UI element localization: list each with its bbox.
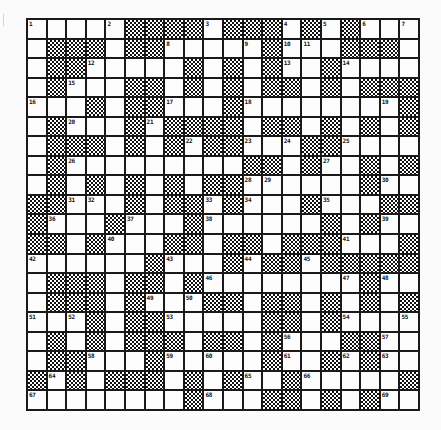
- crossword-cell[interactable]: 35: [322, 196, 340, 214]
- crossword-cell[interactable]: 24: [283, 137, 301, 155]
- crossword-cell[interactable]: [204, 79, 222, 97]
- crossword-cell[interactable]: [302, 98, 320, 116]
- crossword-cell[interactable]: 67: [28, 391, 46, 409]
- crossword-cell[interactable]: 66: [302, 372, 320, 390]
- crossword-cell[interactable]: 55: [400, 313, 418, 331]
- crossword-cell[interactable]: [87, 255, 105, 273]
- crossword-cell[interactable]: [146, 59, 164, 77]
- crossword-cell[interactable]: [342, 196, 360, 214]
- crossword-cell[interactable]: 50: [185, 294, 203, 312]
- crossword-cell[interactable]: [283, 157, 301, 175]
- crossword-cell[interactable]: [126, 255, 144, 273]
- crossword-cell[interactable]: [204, 98, 222, 116]
- crossword-cell[interactable]: [48, 391, 66, 409]
- crossword-cell[interactable]: [185, 40, 203, 58]
- crossword-cell[interactable]: [244, 294, 262, 312]
- crossword-cell[interactable]: [28, 352, 46, 370]
- crossword-cell[interactable]: [224, 157, 242, 175]
- crossword-cell[interactable]: [106, 157, 124, 175]
- crossword-cell[interactable]: [283, 176, 301, 194]
- crossword-cell[interactable]: [302, 391, 320, 409]
- crossword-cell[interactable]: 31: [67, 196, 85, 214]
- crossword-cell[interactable]: 51: [28, 313, 46, 331]
- crossword-cell[interactable]: [204, 313, 222, 331]
- crossword-cell[interactable]: [106, 391, 124, 409]
- crossword-cell[interactable]: [126, 352, 144, 370]
- crossword-cell[interactable]: [400, 137, 418, 155]
- crossword-cell[interactable]: [244, 313, 262, 331]
- crossword-cell[interactable]: [381, 372, 399, 390]
- crossword-cell[interactable]: 38: [204, 215, 222, 233]
- crossword-cell[interactable]: 37: [126, 215, 144, 233]
- crossword-cell[interactable]: [361, 372, 379, 390]
- crossword-cell[interactable]: [381, 294, 399, 312]
- crossword-cell[interactable]: 45: [302, 255, 320, 273]
- crossword-cell[interactable]: [400, 352, 418, 370]
- crossword-cell[interactable]: [283, 196, 301, 214]
- crossword-cell[interactable]: [302, 215, 320, 233]
- crossword-cell[interactable]: [28, 294, 46, 312]
- crossword-cell[interactable]: 56: [283, 333, 301, 351]
- crossword-cell[interactable]: [302, 294, 320, 312]
- crossword-cell[interactable]: [400, 176, 418, 194]
- crossword-cell[interactable]: [342, 157, 360, 175]
- crossword-cell[interactable]: 19: [381, 98, 399, 116]
- crossword-cell[interactable]: [244, 118, 262, 136]
- crossword-cell[interactable]: [204, 255, 222, 273]
- crossword-cell[interactable]: [28, 59, 46, 77]
- crossword-cell[interactable]: 11: [302, 40, 320, 58]
- crossword-cell[interactable]: [361, 137, 379, 155]
- crossword-cell[interactable]: [28, 157, 46, 175]
- crossword-cell[interactable]: [165, 274, 183, 292]
- crossword-cell[interactable]: [106, 294, 124, 312]
- crossword-cell[interactable]: 27: [322, 157, 340, 175]
- crossword-cell[interactable]: [244, 215, 262, 233]
- crossword-cell[interactable]: [361, 196, 379, 214]
- crossword-cell[interactable]: [342, 215, 360, 233]
- crossword-cell[interactable]: [381, 157, 399, 175]
- crossword-cell[interactable]: 23: [244, 137, 262, 155]
- crossword-cell[interactable]: 49: [146, 294, 164, 312]
- crossword-cell[interactable]: [67, 235, 85, 253]
- crossword-cell[interactable]: [400, 215, 418, 233]
- crossword-cell[interactable]: 52: [67, 313, 85, 331]
- crossword-cell[interactable]: [67, 98, 85, 116]
- crossword-cell[interactable]: 60: [204, 352, 222, 370]
- crossword-cell[interactable]: [106, 255, 124, 273]
- crossword-cell[interactable]: [106, 313, 124, 331]
- crossword-cell[interactable]: 61: [283, 352, 301, 370]
- crossword-cell[interactable]: [224, 352, 242, 370]
- crossword-cell[interactable]: [342, 391, 360, 409]
- crossword-cell[interactable]: 29: [263, 176, 281, 194]
- crossword-cell[interactable]: [322, 333, 340, 351]
- crossword-cell[interactable]: [126, 235, 144, 253]
- crossword-cell[interactable]: [28, 274, 46, 292]
- crossword-cell[interactable]: [302, 333, 320, 351]
- crossword-cell[interactable]: [263, 137, 281, 155]
- crossword-cell[interactable]: [322, 274, 340, 292]
- crossword-cell[interactable]: [361, 235, 379, 253]
- crossword-cell[interactable]: [204, 372, 222, 390]
- crossword-cell[interactable]: [185, 352, 203, 370]
- crossword-cell[interactable]: [106, 40, 124, 58]
- crossword-cell[interactable]: [185, 313, 203, 331]
- crossword-cell[interactable]: 48: [381, 274, 399, 292]
- crossword-cell[interactable]: [400, 333, 418, 351]
- crossword-cell[interactable]: 18: [244, 98, 262, 116]
- crossword-cell[interactable]: 40: [106, 235, 124, 253]
- crossword-cell[interactable]: 36: [48, 215, 66, 233]
- crossword-cell[interactable]: 3: [204, 20, 222, 38]
- crossword-cell[interactable]: [28, 118, 46, 136]
- crossword-cell[interactable]: [106, 98, 124, 116]
- crossword-cell[interactable]: [165, 215, 183, 233]
- crossword-cell[interactable]: 2: [106, 20, 124, 38]
- crossword-cell[interactable]: 54: [342, 313, 360, 331]
- crossword-cell[interactable]: [185, 98, 203, 116]
- crossword-cell[interactable]: [302, 176, 320, 194]
- crossword-cell[interactable]: [185, 176, 203, 194]
- crossword-cell[interactable]: [244, 274, 262, 292]
- crossword-cell[interactable]: [67, 333, 85, 351]
- crossword-cell[interactable]: [146, 157, 164, 175]
- crossword-cell[interactable]: [185, 333, 203, 351]
- crossword-cell[interactable]: [381, 20, 399, 38]
